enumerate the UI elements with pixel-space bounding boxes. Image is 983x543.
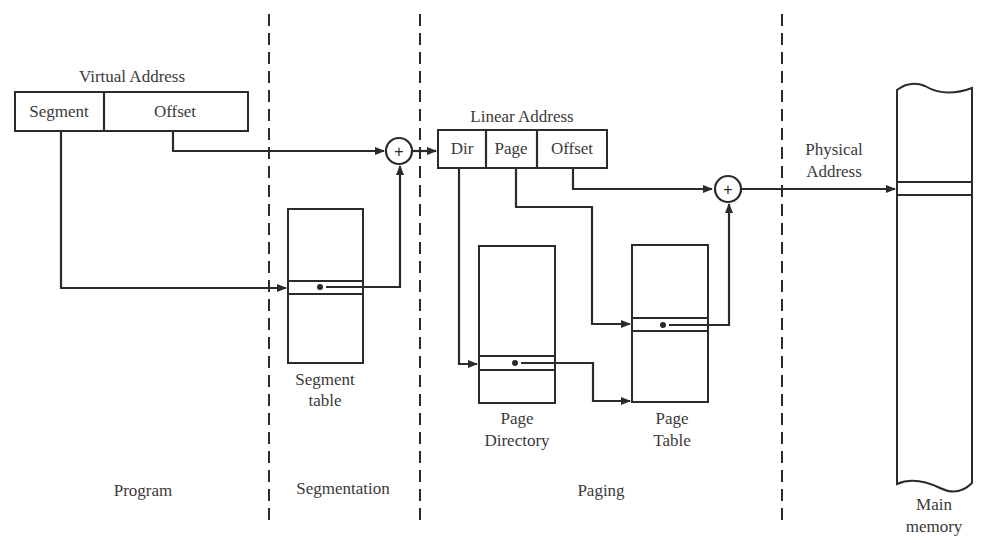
- main-memory: [897, 84, 972, 492]
- page-table-label-2: Table: [653, 431, 691, 450]
- segment-table-label-1: Segment: [295, 370, 355, 389]
- la-offset-arrow: [573, 168, 712, 189]
- la-field-dir: Dir: [451, 139, 474, 158]
- physical-address-label-2: Address: [806, 162, 862, 181]
- page-table-entry-dot: [660, 322, 666, 328]
- virtual-address-register: Segment Offset: [15, 92, 248, 131]
- region-label-paging: Paging: [577, 481, 625, 500]
- la-dir-arrow: [459, 168, 477, 364]
- va-field-offset: Offset: [154, 102, 196, 121]
- svg-text:+: +: [394, 143, 403, 160]
- svg-text:+: +: [723, 181, 732, 198]
- la-field-page: Page: [494, 139, 527, 158]
- address-translation-diagram: Virtual Address Segment Offset Segment t…: [0, 0, 983, 543]
- main-memory-label-2: memory: [906, 517, 963, 536]
- segment-table-label-2: table: [308, 391, 341, 410]
- main-memory-label-1: Main: [916, 495, 952, 514]
- page-directory-label-1: Page: [500, 409, 533, 428]
- page-directory-label-2: Directory: [484, 431, 550, 450]
- physical-address-label-1: Physical: [805, 140, 863, 159]
- la-field-offset: Offset: [551, 139, 593, 158]
- linear-address-register: Dir Page Offset: [438, 130, 607, 168]
- segmentation-adder: +: [386, 138, 412, 164]
- linear-address-title: Linear Address: [470, 107, 573, 126]
- page-table: [632, 245, 708, 402]
- va-field-segment: Segment: [29, 102, 89, 121]
- va-segment-arrow: [61, 131, 286, 288]
- virtual-address-title: Virtual Address: [79, 67, 185, 86]
- page-table-label-1: Page: [655, 409, 688, 428]
- va-offset-arrow: [173, 131, 384, 151]
- segment-descriptor-dot: [317, 284, 323, 290]
- region-label-segmentation: Segmentation: [296, 479, 390, 498]
- paging-adder: +: [715, 176, 741, 202]
- region-label-program: Program: [114, 481, 173, 500]
- page-directory-entry-dot: [512, 360, 518, 366]
- page-directory: [479, 246, 555, 403]
